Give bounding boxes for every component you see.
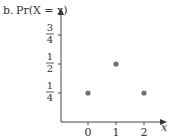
part-label: b. (3, 4, 14, 17)
svg-text:4: 4 (47, 34, 53, 45)
x-tick-label-1: 1 (113, 126, 120, 137)
svg-text:1: 1 (47, 51, 53, 62)
y-axis-label: Pr(X = x) (16, 4, 68, 17)
svg-text:4: 4 (47, 92, 53, 103)
x-axis-label: x (161, 121, 168, 134)
chart: 1 4 1 2 3 4 0 1 2 x b. Pr(X = x) (0, 0, 169, 137)
y-tick-label-quarter: 1 4 (46, 80, 54, 103)
data-point-2 (141, 90, 146, 95)
data-point-1 (113, 61, 118, 66)
x-tick-label-2: 2 (141, 126, 148, 137)
y-tick-label-three-quarters: 3 4 (46, 22, 54, 45)
x-tick-label-0: 0 (85, 126, 92, 137)
svg-text:2: 2 (47, 63, 53, 74)
data-point-0 (85, 90, 90, 95)
y-tick-label-half: 1 2 (46, 51, 54, 74)
svg-text:3: 3 (47, 22, 53, 33)
svg-text:1: 1 (47, 80, 53, 91)
